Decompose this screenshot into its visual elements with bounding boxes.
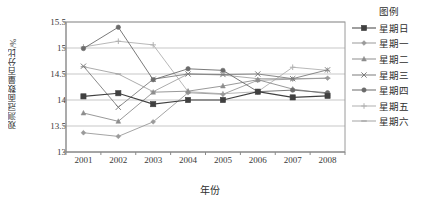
series-星期四 — [81, 25, 330, 95]
legend-item-星期二[interactable]: 星期二 — [352, 51, 422, 67]
data-point-marker — [81, 94, 86, 99]
data-point-marker — [220, 97, 225, 102]
data-point-marker — [81, 130, 86, 135]
legend-item-label: 星期二 — [376, 52, 409, 66]
chart-container: 观测冠面数量百分比/% 1313.51414.51515.5 200120022… — [0, 0, 425, 213]
data-point-marker — [221, 92, 226, 97]
data-point-marker — [151, 102, 156, 107]
x-tick-label: 2006 — [249, 155, 267, 165]
legend: 图例 星期日星期一星期二星期三星期四星期五星期六 — [352, 4, 422, 129]
legend-marker-icon — [359, 54, 369, 64]
legend-swatch-icon — [352, 37, 376, 49]
data-point-marker — [116, 25, 120, 29]
legend-item-星期三[interactable]: 星期三 — [352, 67, 422, 83]
data-point-marker — [325, 76, 330, 81]
series-line — [83, 27, 327, 93]
x-tick-label: 2007 — [284, 155, 302, 165]
legend-marker-icon — [359, 23, 369, 33]
legend-swatch-icon — [352, 84, 376, 96]
legend-marker-icon — [359, 70, 369, 80]
data-point-marker — [255, 89, 260, 94]
legend-item-label: 星期四 — [376, 83, 409, 97]
data-point-marker — [362, 88, 366, 92]
legend-title: 图例 — [358, 4, 420, 18]
data-point-marker — [361, 103, 367, 109]
data-point-marker — [151, 78, 155, 82]
legend-marker-icon — [359, 38, 369, 48]
legend-swatch-icon — [352, 69, 376, 81]
data-point-marker — [116, 105, 121, 110]
legend-swatch-icon — [352, 115, 376, 127]
data-point-marker — [81, 46, 85, 50]
legend-swatch-icon — [352, 22, 376, 34]
legend-item-星期四[interactable]: 星期四 — [352, 82, 422, 98]
x-tick-label: 2008 — [319, 155, 337, 165]
data-point-marker — [290, 95, 295, 100]
data-point-marker — [325, 93, 330, 98]
legend-item-label: 星期五 — [376, 99, 409, 113]
data-point-marker — [81, 110, 86, 115]
data-point-marker — [361, 25, 366, 30]
data-point-marker — [361, 72, 366, 77]
legend-item-星期日[interactable]: 星期日 — [352, 20, 422, 36]
legend-item-label: 星期三 — [376, 68, 409, 82]
legend-item-label: 星期六 — [376, 114, 409, 128]
legend-item-星期五[interactable]: 星期五 — [352, 98, 422, 114]
data-point-marker — [290, 88, 294, 92]
x-tick-label: 2004 — [179, 155, 197, 165]
legend-swatch-icon — [352, 53, 376, 65]
legend-marker-icon — [359, 85, 369, 95]
data-point-marker — [116, 38, 122, 44]
data-point-marker — [116, 91, 121, 96]
data-point-marker — [221, 68, 225, 72]
legend-item-星期一[interactable]: 星期一 — [352, 36, 422, 52]
legend-swatch-icon — [352, 100, 376, 112]
data-point-marker — [185, 97, 190, 102]
legend-marker-icon — [359, 116, 369, 126]
data-point-marker — [362, 41, 367, 46]
legend-item-星期六[interactable]: 星期六 — [352, 114, 422, 130]
data-point-marker — [362, 56, 367, 61]
series-line — [83, 66, 327, 107]
x-tick-label: 2001 — [74, 155, 92, 165]
data-point-marker — [116, 134, 121, 139]
legend-item-label: 星期日 — [376, 21, 409, 35]
x-tick-label: 2002 — [109, 155, 127, 165]
x-axis-title: 年份 — [80, 182, 340, 197]
legend-item-label: 星期一 — [376, 36, 409, 50]
data-point-marker — [290, 64, 296, 70]
series-line — [83, 78, 327, 136]
plot-frame — [66, 22, 345, 152]
legend-marker-icon — [359, 101, 369, 111]
x-tick-label: 2005 — [214, 155, 232, 165]
x-tick-label: 2003 — [144, 155, 162, 165]
data-point-marker — [186, 67, 190, 71]
